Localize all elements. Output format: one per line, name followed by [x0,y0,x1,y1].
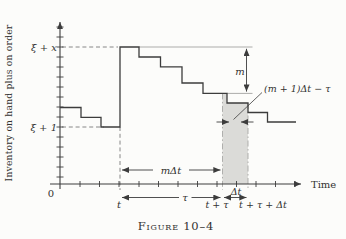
inventory-diagram: Inventory on hand plus on order ξ + x ξ … [0,0,346,239]
inventory-step-curve [60,47,296,127]
label-xi-plus-x: ξ + x [31,42,57,53]
lead-time-arrival-shaded-region [223,93,249,184]
y-axis-title: Inventory on hand plus on order [3,24,14,181]
label-t-plus-tau: t + τ [205,199,229,210]
label-m-dt: mΔt [161,165,183,176]
label-dt: Δt [230,186,242,197]
figure-caption: Figure 10–4 [138,219,214,233]
label-origin-zero: 0 [48,188,54,199]
label-xi-plus-one: ξ + 1 [30,122,57,133]
x-axis-title-time: Time [311,179,336,190]
label-t-plus-tau-plus-dt: t + τ + Δt [239,199,287,210]
figure-page: Inventory on hand plus on order ξ + x ξ … [0,0,346,239]
label-m-plus-1-dt-minus-tau: (m + 1)Δt − τ [264,83,331,94]
label-m: m [235,66,244,77]
label-t: t [117,199,122,210]
label-tau: τ [182,192,188,203]
